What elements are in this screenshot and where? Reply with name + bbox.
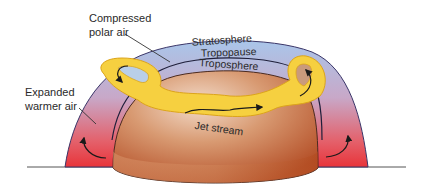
expanded-warmer-air-label-line2: warmer air <box>24 100 77 112</box>
expanded-warmer-air-label-line1: Expanded <box>25 86 75 98</box>
compressed-polar-air-label-line1: Compressed <box>89 12 151 24</box>
jet-stream-diagram: Compressed polar air Stratosphere Tropop… <box>0 0 425 192</box>
compressed-polar-air-label-line2: polar air <box>89 26 129 38</box>
